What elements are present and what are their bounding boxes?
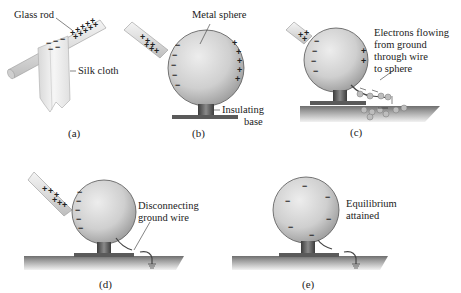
insulating-base [74,253,134,257]
insulating-base [279,253,339,257]
label-disconnecting-2: ground wire [138,212,189,223]
svg-text:+: + [42,184,47,194]
svg-text:−: − [302,181,307,191]
svg-text:−: − [172,70,177,80]
label-glass-rod: Glass rod [14,9,55,20]
charged-rod: +++ +++ [124,22,168,58]
charged-rod: +++ [286,22,312,44]
leader-line [134,222,150,250]
label-metal-sphere: Metal sphere [192,9,247,20]
label-electrons-4: to sphere [374,63,413,74]
svg-text:+: + [93,20,98,30]
svg-text:−: − [60,34,65,44]
sphere-positive-charges: ++ [361,46,366,66]
svg-text:−: − [325,192,330,202]
svg-text:−: − [175,80,180,90]
ground-wire-disconnected [318,240,332,249]
label-silk-cloth: Silk cloth [78,65,119,76]
caption-a: (a) [68,127,81,140]
svg-text:+: + [361,46,366,56]
svg-text:+: + [361,56,366,66]
label-base: base [244,116,263,127]
caption-d: (d) [99,278,112,291]
svg-text:−: − [48,44,53,54]
insulating-base [172,115,238,119]
svg-text:−: − [314,36,319,46]
label-disconnecting-1: Disconnecting [138,200,199,211]
svg-text:−: − [172,50,177,60]
charging-by-induction-diagram: +++++ +++++ −−− −− Glass rod Silk cloth … [0,0,461,293]
insulating-base [310,101,366,105]
svg-text:−: − [312,46,317,56]
svg-text:−: − [309,230,314,240]
panel-a: +++++ +++++ −−− −− Glass rod Silk cloth … [6,9,119,140]
svg-text:−: − [171,60,176,70]
label-equilibrium-1: Equilibrium [346,198,397,209]
caption-b: (b) [192,127,205,140]
svg-text:+: + [304,28,309,38]
svg-text:−: − [311,56,316,66]
svg-text:−: − [175,40,180,50]
insulating-stem [198,104,214,116]
svg-text:−: − [285,196,290,206]
svg-text:−: − [313,66,318,76]
insulating-stem [301,241,315,254]
leader-line [56,18,72,30]
insulating-stem [333,90,347,102]
svg-text:+: + [154,46,159,56]
label-equilibrium-2: attained [346,210,380,221]
svg-text:−: − [78,223,83,233]
insulating-stem [97,242,111,254]
label-electrons-3: through wire [374,51,428,62]
label-electrons-1: Electrons flowing [374,27,450,38]
panel-d: +++ +++ −−−−− Disconnecting ground wire … [24,172,199,291]
caption-e: (e) [302,278,315,291]
caption-c: (c) [350,126,363,139]
panel-c: +++ −−−− ++ Electrons flowing from groun… [286,22,450,139]
panel-e: −−− −−− Equilibrium attained (e) [232,177,397,291]
panel-b: +++ +++ −−−−− +++++ Metal sphere Insulat… [124,9,265,140]
svg-text:−: − [288,222,293,232]
label-insulating: Insulating [222,104,265,115]
svg-text:−: − [326,214,331,224]
ground-surface [24,256,184,270]
svg-text:−: − [55,42,60,52]
charged-rod: +++ +++ [28,172,72,216]
label-electrons-2: from ground [374,39,428,50]
ground-surface [232,256,388,270]
svg-text:+: + [62,200,67,210]
silk-cloth [38,36,70,112]
svg-text:+: + [235,74,240,84]
